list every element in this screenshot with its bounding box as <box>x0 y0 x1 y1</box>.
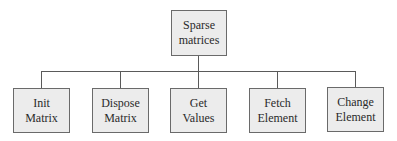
child-node-fetch-element: Fetch Element <box>249 88 306 133</box>
branch-connector <box>277 71 278 88</box>
branch-connector <box>120 71 121 88</box>
root-node-sparse-matrices: Sparse matrices <box>171 10 227 56</box>
trunk-connector <box>198 56 199 72</box>
branch-connector <box>355 71 356 88</box>
branch-connector <box>41 71 42 88</box>
branch-connector <box>198 71 199 88</box>
node-label: Init Matrix <box>25 96 58 126</box>
child-node-init-matrix: Init Matrix <box>13 88 70 133</box>
node-label: Dispose Matrix <box>101 96 140 126</box>
child-node-change-element: Change Element <box>327 87 384 132</box>
node-label: Fetch Element <box>258 96 298 126</box>
node-label: Get Values <box>183 96 215 126</box>
node-label: Sparse matrices <box>179 18 220 48</box>
child-node-dispose-matrix: Dispose Matrix <box>92 88 149 133</box>
node-label: Change Element <box>336 95 376 125</box>
child-node-get-values: Get Values <box>170 88 227 133</box>
